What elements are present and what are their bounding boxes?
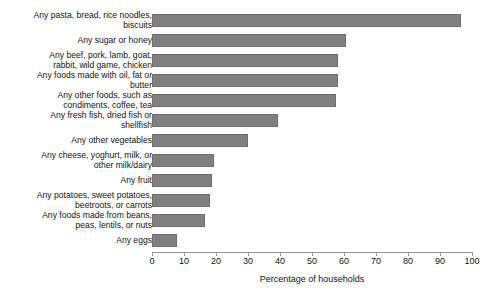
bar-track (152, 34, 472, 47)
bar-track (152, 194, 472, 207)
bar-track (152, 94, 472, 107)
category-label: Any eggs (6, 236, 152, 246)
category-label: Any fruit (6, 176, 152, 186)
bar-row: Any pasta, bread, rice noodles, biscuits (0, 11, 485, 31)
x-tick-label: 40 (275, 256, 285, 266)
x-tick-label: 90 (435, 256, 445, 266)
x-tick-label: 50 (307, 256, 317, 266)
bar-row: Any eggs (0, 231, 485, 251)
category-label: Any other foods, such as condiments, cof… (6, 91, 152, 110)
bar (152, 154, 214, 167)
bar (152, 194, 210, 207)
bar (152, 214, 205, 227)
x-tick-label: 100 (464, 256, 479, 266)
category-label: Any foods made from beans, peas, lentils… (6, 211, 152, 230)
bar-row: Any other foods, such as condiments, cof… (0, 91, 485, 111)
bar (152, 174, 212, 187)
bar-track (152, 14, 472, 27)
x-tick-label: 30 (243, 256, 253, 266)
bar (152, 14, 461, 27)
bar-chart: Any pasta, bread, rice noodles, biscuits… (0, 0, 485, 290)
bar-track (152, 154, 472, 167)
bar (152, 54, 338, 67)
bar-track (152, 74, 472, 87)
bar-row: Any potatoes, sweet potatoes, beetroots,… (0, 191, 485, 211)
bar-row: Any fresh fish, dried fish or shellfish (0, 111, 485, 131)
x-tick-label: 0 (149, 256, 154, 266)
bar-track (152, 234, 472, 247)
bar-track (152, 214, 472, 227)
category-label: Any fresh fish, dried fish or shellfish (6, 111, 152, 130)
category-label: Any foods made with oil, fat or butter (6, 71, 152, 90)
category-label: Any beef, pork, lamb, goat, rabbit, wild… (6, 51, 152, 70)
bar-row: Any beef, pork, lamb, goat, rabbit, wild… (0, 51, 485, 71)
plot-area: Any pasta, bread, rice noodles, biscuits… (0, 0, 485, 290)
bar-row: Any cheese, yoghurt, milk, or other milk… (0, 151, 485, 171)
bar (152, 94, 336, 107)
x-axis-ticks: 0102030405060708090100 (152, 253, 472, 265)
bar-track (152, 134, 472, 147)
category-label: Any cheese, yoghurt, milk, or other milk… (6, 151, 152, 170)
bar-row: Any sugar or honey (0, 31, 485, 51)
bar-row: Any foods made with oil, fat or butter (0, 71, 485, 91)
bar-row: Any fruit (0, 171, 485, 191)
bar (152, 74, 338, 87)
category-label: Any pasta, bread, rice noodles, biscuits (6, 11, 152, 30)
bar-rows: Any pasta, bread, rice noodles, biscuits… (0, 11, 485, 251)
category-label: Any sugar or honey (6, 36, 152, 46)
bar (152, 134, 248, 147)
category-label: Any other vegetables (6, 136, 152, 146)
x-tick-label: 10 (179, 256, 189, 266)
bar-row: Any other vegetables (0, 131, 485, 151)
x-tick-label: 80 (403, 256, 413, 266)
x-tick-label: 20 (211, 256, 221, 266)
bar-track (152, 54, 472, 67)
bar-track (152, 114, 472, 127)
bar-track (152, 174, 472, 187)
x-axis-title: Percentage of households (152, 274, 472, 284)
category-label: Any potatoes, sweet potatoes, beetroots,… (6, 191, 152, 210)
bar (152, 114, 278, 127)
bar (152, 34, 346, 47)
x-tick-label: 60 (339, 256, 349, 266)
bar (152, 234, 177, 247)
x-tick-label: 70 (371, 256, 381, 266)
bar-row: Any foods made from beans, peas, lentils… (0, 211, 485, 231)
